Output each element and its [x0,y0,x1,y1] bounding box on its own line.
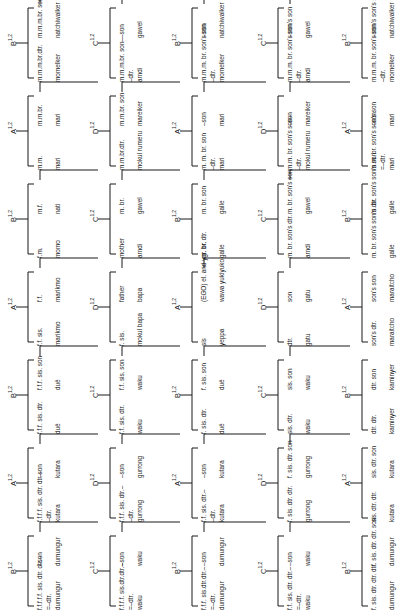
kin-term-left: mari [54,158,61,170]
section-subscript: 1,2 [341,386,347,393]
section-letter: C [91,569,100,574]
section-subscript: 1,2 [171,298,177,305]
kin-label-left: f. sis. dtr. dtr. [286,486,293,522]
kin-rel-left: –dtr. [209,70,216,82]
kin-term-left: gatu [304,334,311,346]
kin-term-right: dumungur [54,537,61,566]
section-letter: C [91,393,100,398]
kin-label-right: m.m.br. son [118,93,125,126]
section-subscript: 1,2 [7,386,13,393]
section-letter: A [173,129,182,134]
section-letter: B [343,41,352,46]
kin-term-right: dué [218,379,225,390]
kin-label-left: f.f.f. sis. dtr.– [118,486,125,522]
kin-rel-left: –dtr. [209,510,216,522]
section-subscript: 1,2 [171,386,177,393]
kin-term-left: maraitcho [388,318,395,346]
section-label: B1,2 [340,34,352,46]
section-label: C1,2 [88,562,100,574]
kin-term-right: waku [136,375,143,390]
kin-term-left: mokul bapa [136,313,143,346]
kin-label-right: –son [370,112,377,126]
section-subscript: 1,2 [7,562,13,569]
kin-term-left: arndi [304,68,311,82]
kin-label-right: –son [118,24,125,38]
section-subscript: 1,2 [89,122,95,129]
kin-label-right: m. br. son [200,186,207,214]
section-label: C1,2 [88,210,100,222]
kin-label-left: f.f.f. sis.dtr.dtr.– [200,567,207,610]
section-letter: B [173,41,182,46]
kin-term-left: dumungur [54,581,61,610]
kin-label-left: f.f. sis. dtr.– [200,489,207,522]
kin-label-right: –son [286,112,293,126]
kin-label-right: –son [118,552,125,566]
section-label: C1,2 [256,210,268,222]
section-subscript: 1,2 [257,210,263,217]
section-label: A1,2 [170,122,182,134]
kin-term-right: natchiwalker [388,2,395,38]
kin-rel-left: =–dtr. [379,154,386,170]
kin-label-left: m. br. son's dtr. [286,215,293,258]
section-letter: A [9,129,18,134]
section-subscript: 1,2 [257,474,263,481]
section-subscript: 1,2 [341,298,347,305]
kin-rel-left: –dtr. [209,158,216,170]
section-subscript: 1,2 [171,562,177,569]
kin-label-right: m. br. [118,198,125,214]
kin-label-right: f.f.f. sis. son [36,356,43,390]
section-letter: A [343,305,352,310]
kin-label-right: –son [200,112,207,126]
kin-label-right: m. br. son's son [286,169,293,214]
kin-label-left: m.m.m. br. son's son's son's son [370,0,377,82]
section-letter: B [9,569,18,574]
kin-label-right: –son [118,464,125,478]
kin-label-left: f. sis. dtr. [200,408,207,434]
kin-label-left: f.f. sis. dtr. [118,405,125,434]
kin-rel-left: =–dtr. [295,594,302,610]
kin-term-right: mari [388,114,395,126]
section-label: B1,2 [6,210,18,222]
section-label: A1,2 [340,474,352,486]
section-letter: C [91,41,100,46]
kin-term-right: natchiwalker [218,2,225,38]
section-subscript: 1,2 [89,34,95,41]
section-label: A1,2 [6,298,18,310]
kin-term-left: galle [388,244,395,258]
kin-rel-left: –dtr. [127,510,134,522]
kin-label-right: f. sis. dtr. dtr. son [370,518,377,566]
kin-term-right: mareiker [304,101,311,126]
kin-term-left: arndi [136,244,143,258]
kin-term-right: kutara [54,460,61,478]
kin-term-right: natchiwalker [54,2,61,38]
kin-term-right: gurrong [136,456,143,478]
kin-term-left: kutara [218,504,225,522]
kin-label-right: –son [36,464,43,478]
kin-rel-left: –dtr. [127,70,134,82]
section-letter: A [173,305,182,310]
section-label: D1,2 [88,122,100,134]
kin-label-left: sis. dtr. dtr. [370,491,377,522]
section-label: D1,2 [88,298,100,310]
section-subscript: 1,2 [89,210,95,217]
kin-term-left: arndi [136,68,143,82]
section-label: D1,2 [256,474,268,486]
kin-label-left: f. sis. dtr. dtr. dtr. [370,563,377,610]
section-label: B1,2 [6,34,18,46]
kin-label-right: –son [286,552,293,566]
kin-term-right: mari [54,114,61,126]
kin-term-right: kutara [388,460,395,478]
kin-label-left: dtr. dtr. [370,414,377,434]
section-letter: D [259,305,268,310]
kin-term-right: gatu [304,290,311,302]
kin-label-left: f.f. sis. [36,328,43,346]
section-letter: C [259,569,268,574]
kin-term-left: waku [136,419,143,434]
section-letter: C [259,217,268,222]
section-subscript: 1,2 [341,562,347,569]
kin-label-left: m.m.m. br. son's son's son [286,7,293,82]
kin-term-left: marikmo [54,322,61,347]
kin-label-left: son's dtr. [370,321,377,346]
kin-term-left: momo [54,240,61,258]
kin-term-right: waku [304,375,311,390]
